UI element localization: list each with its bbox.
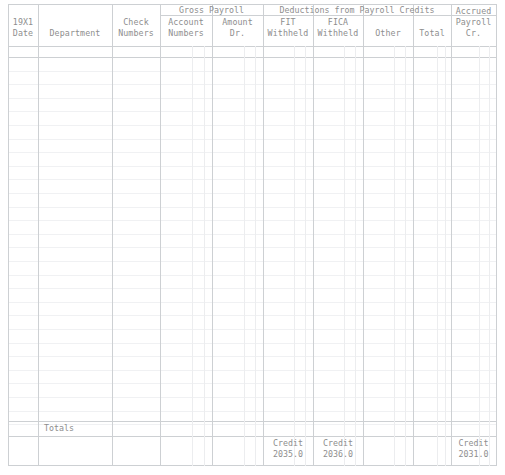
row-rule: [8, 98, 497, 99]
header-col-total: Total: [413, 28, 451, 39]
row-rule: [8, 193, 497, 194]
header-col-fica-line1: FICA: [313, 17, 363, 28]
rule-left-edge: [8, 4, 9, 466]
row-rule: [8, 71, 497, 72]
rule-right-edge: [496, 4, 497, 466]
row-rule: [8, 383, 497, 384]
money-subrule: [294, 46, 295, 466]
row-rule: [8, 329, 497, 330]
money-subrule: [244, 46, 245, 466]
money-subrule: [489, 46, 490, 466]
row-rule: [8, 411, 497, 412]
header-col-fit-line2: Withheld: [263, 28, 313, 39]
row-rule: [8, 343, 497, 344]
header-col-other: Other: [363, 28, 413, 39]
money-subrule: [305, 46, 306, 466]
header-col-fit-withheld: FIT Withheld: [263, 17, 313, 39]
row-rule: [8, 397, 497, 398]
row-rule: [8, 356, 497, 357]
header-col-amount-dr: Amount Dr.: [212, 17, 263, 39]
header-group-deductions: Deductions from Payroll Credits: [263, 5, 451, 16]
rule-col-dept: [112, 4, 113, 466]
header-col-fit-line1: FIT: [263, 17, 313, 28]
money-subrule: [192, 46, 193, 466]
header-group-gross-payroll: Gross Payroll: [160, 5, 263, 16]
totals-row-label: Totals: [44, 423, 74, 434]
rule-header-bottom: [8, 46, 497, 47]
money-subrule: [204, 46, 205, 466]
money-subrule: [479, 46, 480, 466]
header-col-fica-withheld: FICA Withheld: [313, 17, 363, 39]
header-col-fica-line2: Withheld: [313, 28, 363, 39]
row-rule: [8, 125, 497, 126]
credit-note-fit-label: Credit: [263, 438, 313, 449]
row-rule: [8, 166, 497, 167]
row-rule: [8, 315, 497, 316]
credit-note-fica-label: Credit: [313, 438, 363, 449]
row-rule: [8, 370, 497, 371]
header-col-other-label: Other: [363, 28, 413, 39]
header-col-accrued-line3: Cr.: [451, 28, 496, 39]
row-rule: [8, 220, 497, 221]
header-col-accrued-line1: Accrued: [451, 6, 496, 17]
row-rule: [8, 424, 497, 425]
row-rule: [8, 275, 497, 276]
money-subrule: [355, 46, 356, 466]
credit-note-accrued: Credit 2031.0: [451, 438, 496, 460]
header-col-account-line1: Account: [160, 17, 212, 28]
header-col-account-numbers: Account Numbers: [160, 17, 212, 39]
row-rule: [8, 152, 497, 153]
header-col-amount-line1: Amount: [212, 17, 263, 28]
rule-col-amount: [263, 4, 264, 466]
money-subrule: [344, 46, 345, 466]
row-rule: [8, 247, 497, 248]
rule-col-other: [413, 4, 414, 466]
credit-note-fica: Credit 2036.0: [313, 438, 363, 460]
rule-col-acct: [212, 4, 213, 466]
credit-note-fica-value: 2036.0: [313, 449, 363, 460]
rule-totals-bottom: [8, 436, 497, 437]
row-rule: [8, 111, 497, 112]
row-rule: [8, 302, 497, 303]
header-col-check-line1: Check: [112, 17, 160, 28]
rule-col-check: [160, 4, 161, 466]
header-col-department-label: Department: [38, 28, 112, 39]
header-col-department: Department: [38, 28, 112, 39]
rule-bottom: [8, 465, 497, 466]
row-rule: [8, 179, 497, 180]
header-col-account-line2: Numbers: [160, 28, 212, 39]
credit-note-accrued-label: Credit: [451, 438, 496, 449]
row-rule: [8, 207, 497, 208]
header-col-accrued-payroll-cr: Accrued Payroll Cr.: [451, 6, 496, 39]
header-col-amount-line2: Dr.: [212, 28, 263, 39]
rule-col-date: [38, 4, 39, 466]
money-subrule: [394, 46, 395, 466]
header-col-total-label: Total: [413, 28, 451, 39]
header-col-check-numbers: Check Numbers: [112, 17, 160, 39]
money-subrule: [445, 46, 446, 466]
row-rule: [8, 84, 497, 85]
money-subrule: [255, 46, 256, 466]
header-col-date-line2: Date: [8, 28, 38, 39]
rule-totals-top: [8, 421, 497, 422]
credit-note-fit-value: 2035.0: [263, 449, 313, 460]
money-subrule: [405, 46, 406, 466]
row-rule: [8, 234, 497, 235]
rule-col-fit: [313, 4, 314, 466]
header-col-date: 19X1 Date: [8, 17, 38, 39]
rule-col-fica: [363, 4, 364, 466]
row-rule: [8, 261, 497, 262]
payroll-ledger-table: Gross Payroll Deductions from Payroll Cr…: [8, 4, 497, 466]
row-rule: [8, 139, 497, 140]
credit-note-accrued-value: 2031.0: [451, 449, 496, 460]
header-col-check-line2: Numbers: [112, 28, 160, 39]
rule-col-total: [451, 4, 452, 466]
money-subrule: [437, 46, 438, 466]
header-col-accrued-line2: Payroll: [451, 17, 496, 28]
credit-note-fit: Credit 2035.0: [263, 438, 313, 460]
row-rule: [8, 288, 497, 289]
rule-body-start: [8, 57, 497, 58]
header-col-date-line1: 19X1: [8, 17, 38, 28]
